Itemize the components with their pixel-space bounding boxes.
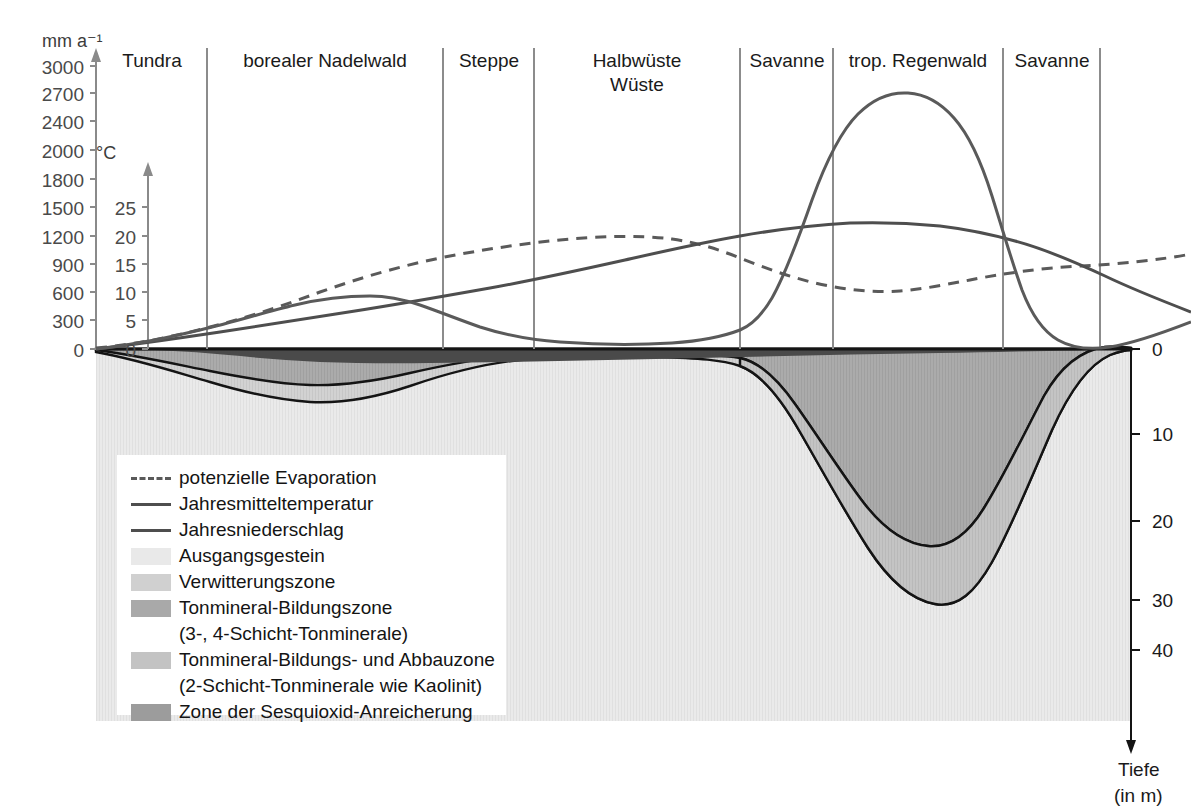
zone-label-steppe: Steppe <box>459 49 519 73</box>
depth-axis-unit: (in m) <box>1114 786 1163 805</box>
legend-label: potenzielle Evaporation <box>179 466 377 490</box>
depth-tick-label: 30 <box>1152 591 1173 610</box>
legend-label: Jahresmitteltemperatur <box>179 492 373 516</box>
legend-label: Tonmineral-Bildungszone <box>179 596 392 620</box>
legend-item-potential-evaporation: potenzielle Evaporation <box>117 465 506 491</box>
precip-tick-label: 1200 <box>0 228 84 247</box>
dashed-line-icon <box>131 471 171 485</box>
zone-label-trop-regenwald: trop. Regenwald <box>849 49 987 73</box>
curve-annual-mean-temperature <box>96 223 1191 349</box>
zone-label-wueste: Wüste <box>610 73 664 97</box>
depth-tick-label: 40 <box>1152 641 1173 660</box>
precip-tick-label: 1800 <box>0 171 84 190</box>
precip-tick-label: 900 <box>0 256 84 275</box>
swatch-clay-breakdown-icon <box>131 652 171 669</box>
temp-tick-label: 15 <box>104 256 136 275</box>
depth-tick-label: 20 <box>1152 512 1173 531</box>
zone-label-savanne-right: Savanne <box>1014 49 1089 73</box>
legend-sublabel: (2-Schicht-Tonminerale wie Kaolinit) <box>117 673 506 699</box>
legend-item-weathering-zone: Verwitterungszone <box>117 569 506 595</box>
precipitation-axis <box>90 48 101 349</box>
legend-label: Verwitterungszone <box>179 570 335 594</box>
depth-tick-label: 0 <box>1152 340 1163 359</box>
precipitation-axis-title: mm a⁻¹ <box>42 30 103 52</box>
swatch-weathering-icon <box>131 574 171 591</box>
curve-annual-precipitation <box>96 93 1191 349</box>
zone-label-tundra: Tundra <box>122 49 182 73</box>
legend-sublabel: (3-, 4-Schicht-Tonminerale) <box>117 621 506 647</box>
curve-potential-evaporation <box>96 236 1191 348</box>
precip-tick-label: 1500 <box>0 199 84 218</box>
temp-tick-label: 25 <box>104 199 136 218</box>
depth-tick-label: 10 <box>1152 425 1173 444</box>
legend-item-clay-formation-zone: Tonmineral-Bildungszone <box>117 595 506 621</box>
legend-item-annual-mean-temperature: Jahresmitteltemperatur <box>117 491 506 517</box>
temp-tick-label: 0 <box>104 341 136 360</box>
legend-item-annual-precipitation: Jahresniederschlag <box>117 517 506 543</box>
precip-tick-label: 2000 <box>0 142 84 161</box>
swatch-bedrock-icon <box>131 548 171 565</box>
solid-line-icon <box>131 497 171 511</box>
precip-tick-label: 3000 <box>0 58 84 77</box>
swatch-clay-formation-icon <box>131 600 171 617</box>
temp-tick-label: 20 <box>104 228 136 247</box>
zone-label-halbwueste: Halbwüste <box>593 49 682 73</box>
legend-item-sesquioxide-zone: Zone der Sesquioxid-Anreicherung <box>117 699 506 725</box>
legend-label: Tonmineral-Bildungs- und Abbauzone <box>179 648 495 672</box>
solid-line-icon <box>131 523 171 537</box>
precip-tick-label: 600 <box>0 284 84 303</box>
legend-item-bedrock: Ausgangsgestein <box>117 543 506 569</box>
temp-tick-label: 10 <box>104 284 136 303</box>
temperature-axis <box>142 162 153 349</box>
swatch-sesquioxide-icon <box>131 704 171 721</box>
legend: potenzielle Evaporation Jahresmitteltemp… <box>117 455 506 715</box>
depth-axis-title: Tiefe <box>1118 760 1160 779</box>
temp-tick-label: 5 <box>104 312 136 331</box>
legend-label: Ausgangsgestein <box>179 544 325 568</box>
legend-label: Jahresniederschlag <box>179 518 344 542</box>
precip-tick-label: 2700 <box>0 85 84 104</box>
legend-label: Zone der Sesquioxid-Anreicherung <box>179 700 473 724</box>
precip-tick-label: 2400 <box>0 113 84 132</box>
zone-label-borealer-nadelwald: borealer Nadelwald <box>243 49 407 73</box>
precip-tick-label: 300 <box>0 312 84 331</box>
figure-root: mm a⁻¹ °C 3000 2700 2400 2000 1800 1500 … <box>0 0 1191 809</box>
zone-label-savanne-left: Savanne <box>749 49 824 73</box>
precip-tick-label: 0 <box>0 341 84 360</box>
temperature-axis-title: °C <box>96 143 116 164</box>
legend-item-clay-breakdown-zone: Tonmineral-Bildungs- und Abbauzone <box>117 647 506 673</box>
